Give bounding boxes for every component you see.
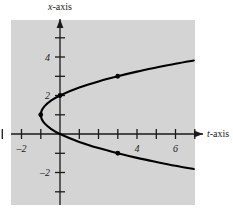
- parametric-curve-figure: –2 4 6 t-axis 4 2 –2: [0, 0, 233, 214]
- x-tick-label--2: –2: [39, 167, 50, 178]
- vertex-point: [38, 112, 43, 117]
- t-tick-label-6: 6: [173, 143, 178, 154]
- t-axis-title: t-axis: [207, 128, 229, 139]
- x-axis-title-suffix: -axis: [53, 1, 73, 12]
- upper-point: [115, 74, 120, 79]
- lower-point: [115, 151, 120, 156]
- plot-svg: –2 4 6 t-axis 4 2 –2: [0, 0, 233, 214]
- t-tick-label-4: 4: [135, 143, 140, 154]
- intercept-point: [58, 93, 63, 98]
- t-axis-title-suffix: -axis: [210, 128, 230, 139]
- t-tick-label--2: –2: [16, 143, 27, 154]
- x-tick-label-4: 4: [45, 52, 50, 63]
- x-axis-title: x-axis: [47, 1, 72, 12]
- x-tick-label-2: 2: [45, 90, 50, 101]
- plot-background-panel: [11, 20, 195, 205]
